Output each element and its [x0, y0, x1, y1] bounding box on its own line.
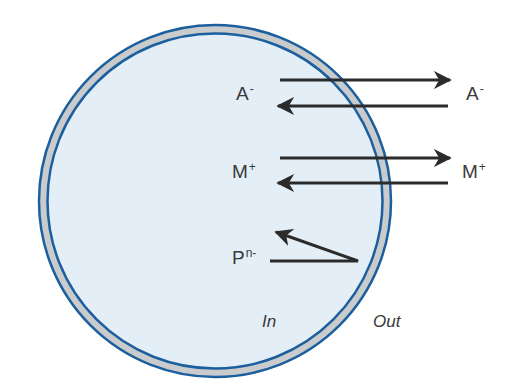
cation-inside-label: M+	[232, 160, 256, 183]
inside-region-label: In	[262, 312, 276, 332]
cation-outside-label: M+	[462, 160, 486, 183]
anion-inside-label: A-	[236, 82, 254, 105]
anion-outside-label: A-	[466, 82, 484, 105]
protein-inside-label: Pn-	[232, 246, 256, 269]
diagram-canvas	[0, 0, 519, 392]
outside-region-label: Out	[373, 312, 400, 332]
